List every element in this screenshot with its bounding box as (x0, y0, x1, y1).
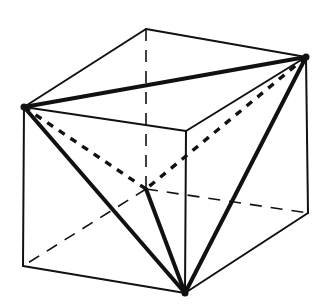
tetrahedron-edge-EH (146, 189, 185, 293)
cube-edge-AC (146, 29, 306, 57)
tetrahedron-hidden-edge-CE (146, 57, 306, 189)
vertex-dot-H (182, 290, 189, 297)
cube-tetrahedron-diagram (0, 0, 333, 308)
tetrahedron-hidden-edges (24, 57, 306, 189)
cube-edge-FH (23, 266, 185, 293)
cube-edge-BF (23, 107, 24, 266)
cube-visible-edges (23, 29, 308, 293)
vertex-dot-B (21, 104, 28, 111)
cube-edge-CG (306, 57, 308, 213)
vertex-dot-C (303, 54, 310, 61)
tetrahedron-edge-BH (24, 107, 185, 293)
tetrahedron-edge-CH (185, 57, 306, 293)
vertex-dot-E (145, 188, 148, 191)
cube-edge-BD (24, 107, 186, 131)
